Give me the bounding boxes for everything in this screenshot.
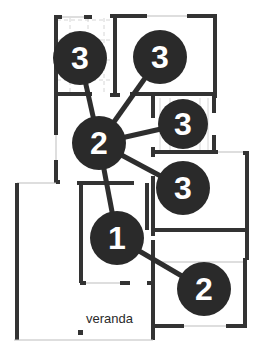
node-label: 3 — [174, 170, 192, 206]
node-label: 2 — [195, 271, 213, 307]
graph-node: 3 — [53, 31, 107, 85]
graph-node: 3 — [156, 161, 210, 215]
node-label: 1 — [108, 220, 126, 256]
floor-plan-diagram: 3323312 veranda — [0, 0, 263, 353]
node-label: 3 — [71, 40, 89, 76]
graph-node: 3 — [133, 30, 187, 84]
graph-node: 2 — [72, 116, 126, 170]
node-label: 3 — [174, 106, 192, 142]
room-labels: veranda — [86, 311, 134, 326]
corridor-left — [56, 110, 60, 183]
graph-node: 1 — [90, 211, 144, 265]
room-label-veranda: veranda — [86, 311, 134, 326]
node-label: 2 — [90, 125, 108, 161]
graph-node: 3 — [158, 99, 208, 149]
graph-node: 2 — [177, 262, 231, 316]
node-label: 3 — [151, 39, 169, 75]
